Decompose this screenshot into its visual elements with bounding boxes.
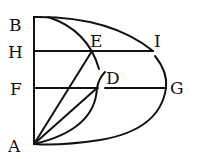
label-H: H [8,42,23,62]
label-A: A [7,136,21,156]
geometric-diagram: B H F A E D I G [0,0,198,159]
label-G: G [170,78,184,98]
line-AE [34,51,92,144]
label-I: I [154,31,161,51]
label-B: B [9,15,22,35]
curve-IGA [34,56,166,145]
label-F: F [10,79,22,99]
label-D: D [106,68,120,88]
label-E: E [90,31,102,51]
